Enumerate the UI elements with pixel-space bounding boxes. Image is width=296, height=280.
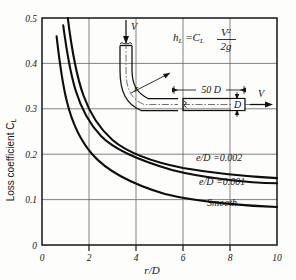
curve-label-eD-0002: e/D =0.002 [196,152,242,163]
xtick-label-2: 2 [87,253,92,263]
radius-label: r [134,83,138,94]
figure-background [0,0,296,280]
y-axis-title-group: Loss coefficient CL [5,119,17,202]
chart-figure: 0.5 0.4 0.3 0.2 0.1 0 0 2 4 6 8 10 r/D L… [0,0,296,280]
ytick-label-0.2: 0.2 [25,150,37,160]
xtick-label-4: 4 [134,253,139,263]
diameter-label: D [233,99,242,110]
xtick-label-10: 10 [272,253,282,263]
ytick-label-0: 0 [32,241,37,251]
ytick-label-0.3: 0.3 [25,104,37,114]
loss-coefficient-chart: 0.5 0.4 0.3 0.2 0.1 0 0 2 4 6 8 10 r/D L… [0,0,296,280]
y-axis-title: Loss coefficient CL [5,119,17,202]
length-label: 50 D [201,84,222,95]
curve-label-smooth: Smooth [207,197,237,208]
xtick-label-8: 8 [228,253,233,263]
x-axis-title: r/D [144,264,159,276]
curve-label-eD-0001: e/D =0.001 [199,176,245,187]
ytick-label-0.1: 0.1 [25,195,37,205]
equation-left: hL =CL [173,31,204,45]
xtick-label-6: 6 [181,253,186,263]
xtick-label-0: 0 [40,253,45,263]
equation-denominator: 2g [221,40,233,52]
ytick-label-0.4: 0.4 [25,59,37,69]
ytick-label-0.5: 0.5 [25,14,37,24]
